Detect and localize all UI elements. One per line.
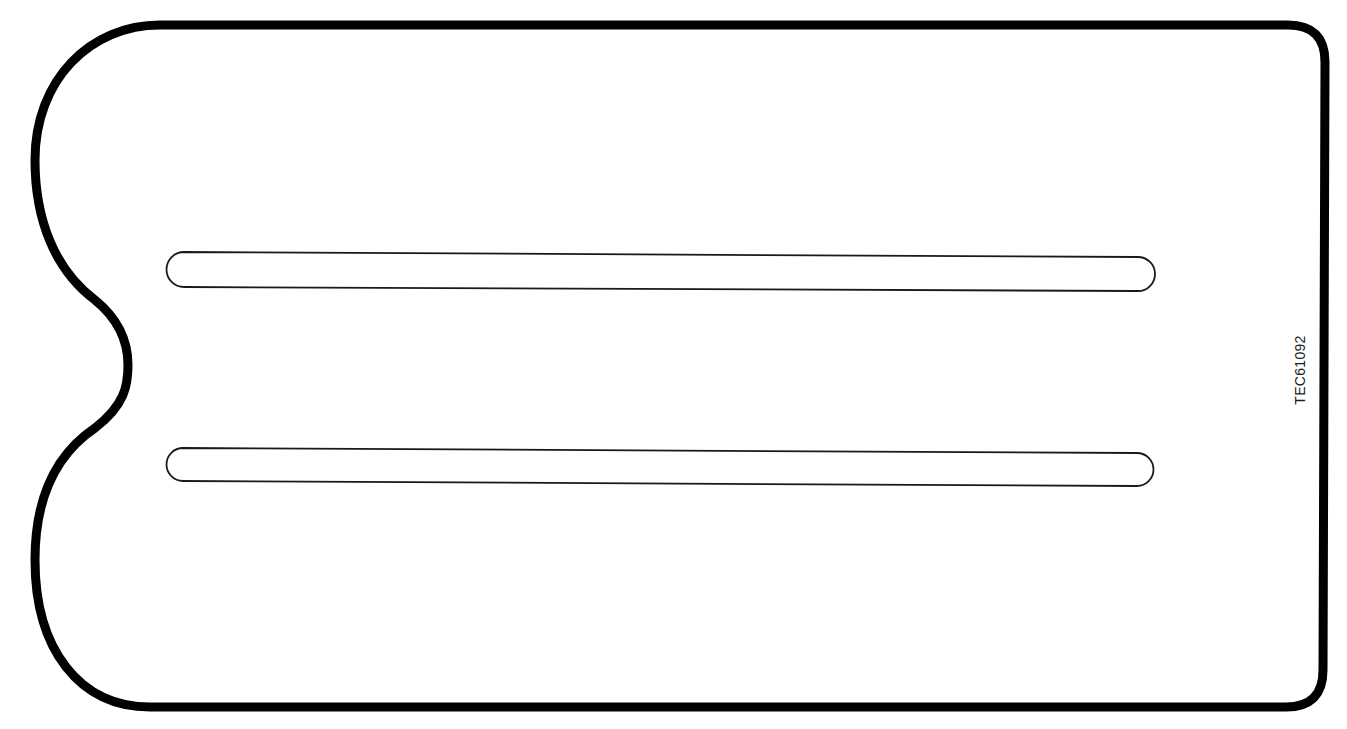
reference-code-label: TEC61092 (1292, 335, 1308, 404)
slot-upper (167, 252, 1156, 291)
drawing-canvas (0, 0, 1347, 729)
slot-lower (167, 448, 1154, 486)
outer-outline (35, 25, 1325, 707)
technical-drawing: TEC61092 (0, 0, 1347, 729)
